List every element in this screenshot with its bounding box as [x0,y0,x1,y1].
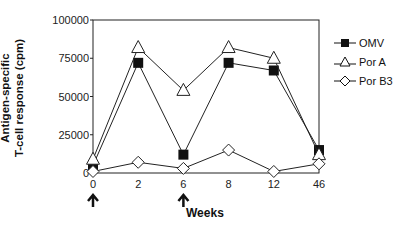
data-point-square [178,150,188,160]
legend-label: Por B3 [359,75,393,87]
arrow-up-icon [88,195,98,207]
plot-frame [93,20,319,173]
x-tick-label: 6 [180,178,186,190]
data-point-triangle [222,41,235,53]
series-line [93,150,319,171]
series-por-b3 [87,144,325,177]
legend-label: Por A [359,56,386,68]
data-point-triangle [177,83,190,95]
y-axis-label-line1: Antigen-specific [0,53,11,142]
data-point-diamond [223,144,235,156]
data-point-square [224,58,234,68]
x-tick-label: 46 [313,178,325,190]
series-group [87,41,326,178]
x-axis-label: Weeks [186,206,224,220]
legend-item-por-b3: Por B3 [334,71,393,90]
y-tick-label: 50000 [58,91,89,103]
series-por-a [87,41,326,165]
x-tick-label: 2 [135,178,141,190]
x-tick-label: 8 [226,178,232,190]
legend-item-por-a: Por A [334,52,393,71]
y-tick-label: 25000 [58,129,89,141]
x-tick-label: 12 [268,178,280,190]
legend: OMV Por A Por B3 [334,33,393,90]
y-tick-label: 75000 [58,52,89,64]
series-line [93,63,319,166]
data-point-square [269,65,279,75]
series-omv [88,58,324,171]
y-axis-label-line2: T-cell response (cpm) [13,39,25,157]
filled-square-marker-icon [334,37,356,49]
open-triangle-marker-icon [334,56,356,68]
legend-item-omv: OMV [334,33,393,52]
series-line [93,48,319,160]
open-diamond-marker-icon [334,75,356,87]
data-point-triangle [132,41,145,53]
data-point-diamond [268,165,280,177]
annotation-arrows [88,195,188,207]
y-tick-label: 100000 [52,14,89,26]
x-tick-label: 0 [90,178,96,190]
data-point-diamond [132,156,144,168]
data-point-square [133,58,143,68]
legend-label: OMV [359,37,384,49]
